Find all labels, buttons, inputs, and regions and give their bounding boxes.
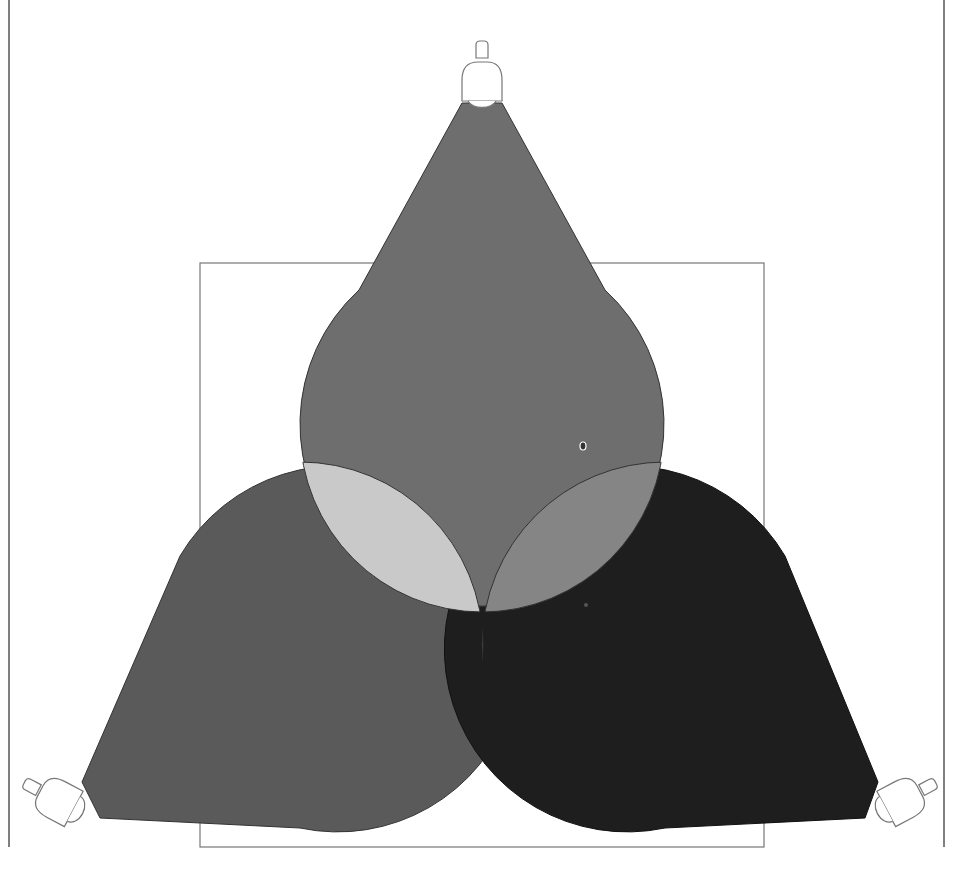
- speck-mark-2: [584, 603, 588, 607]
- top-lamp-icon: [462, 41, 502, 107]
- speck-mark: [580, 442, 586, 450]
- right-lamp-icon: [868, 765, 945, 831]
- left-lamp-icon: [15, 765, 92, 831]
- spotlight-diagram: [0, 0, 968, 885]
